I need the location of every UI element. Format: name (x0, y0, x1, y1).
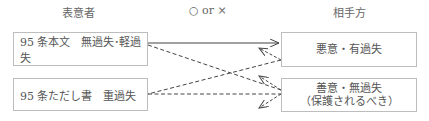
arrow-back-good-faith-lower (259, 94, 281, 108)
arrow-back-good-faith-upper (259, 76, 281, 90)
line-main-text-to-good-faith (148, 45, 281, 90)
arrows-layer (0, 0, 429, 121)
arrow-back-bad-faith (259, 48, 281, 60)
line-bad-faith-to-proviso (148, 60, 281, 94)
